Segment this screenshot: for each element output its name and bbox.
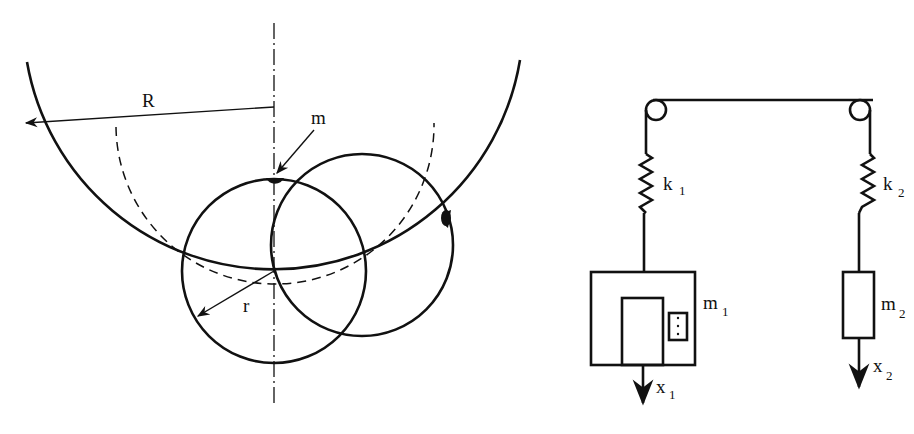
big-radius-label: R bbox=[142, 90, 155, 111]
spring-k1 bbox=[640, 154, 652, 213]
figure-canvas: R m r k 1 m 1 x 1 bbox=[0, 0, 914, 434]
displacement-x1-label: x bbox=[656, 376, 666, 397]
small-radius-arrow bbox=[198, 271, 274, 316]
point-mass-bottom bbox=[266, 178, 284, 184]
mass-m2-label: m bbox=[881, 293, 896, 314]
mass-m2-box bbox=[843, 272, 874, 338]
point-mass-displaced-body bbox=[441, 210, 451, 226]
mass-m1-label: m bbox=[703, 292, 718, 313]
small-radius-label: r bbox=[243, 295, 250, 316]
mass-label: m bbox=[311, 107, 326, 128]
spring-k1-subscript: 1 bbox=[679, 183, 686, 198]
mass-pointer-arrow bbox=[277, 130, 314, 173]
displacement-x2-subscript: 2 bbox=[886, 368, 893, 383]
panel-dot bbox=[677, 333, 679, 335]
spring-k2-label: k bbox=[883, 173, 893, 194]
rolling-disk-diagram: R m r bbox=[26, 23, 520, 404]
pulley-spring-mass-diagram: k 1 m 1 x 1 k 2 m 2 x 2 bbox=[591, 100, 906, 403]
spring-k1-label: k bbox=[663, 173, 673, 194]
right-pulley bbox=[850, 100, 870, 120]
left-pulley bbox=[646, 100, 666, 120]
spring-k2-subscript: 2 bbox=[898, 185, 905, 200]
mass-m1-door bbox=[622, 298, 663, 365]
mass-m1-subscript: 1 bbox=[722, 304, 729, 319]
panel-dot bbox=[677, 325, 679, 327]
mass-m1-box bbox=[591, 272, 695, 365]
displacement-x2-label: x bbox=[873, 355, 883, 376]
mass-m2-subscript: 2 bbox=[899, 306, 906, 321]
center-path-arc bbox=[116, 123, 434, 284]
spring-k2 bbox=[859, 154, 874, 213]
displacement-x1-subscript: 1 bbox=[669, 387, 676, 402]
panel-dot bbox=[677, 317, 679, 319]
